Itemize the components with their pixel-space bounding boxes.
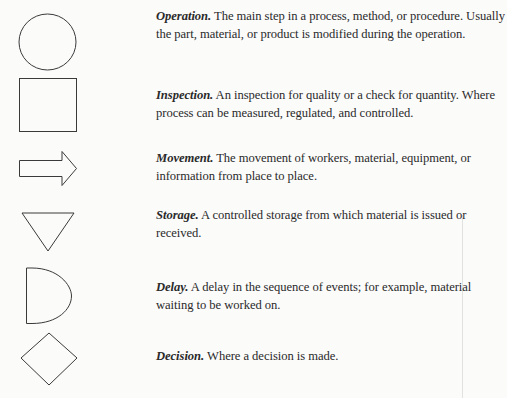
decision-description: Where a decision is made. xyxy=(204,349,338,363)
decision-entry: Decision. Where a decision is made. xyxy=(156,348,506,366)
movement-entry: Movement. The movement of workers, mater… xyxy=(156,150,506,185)
operation-term: Operation. xyxy=(156,9,211,23)
movement-term: Movement. xyxy=(156,151,213,165)
storage-description: A controlled storage from which material… xyxy=(156,208,466,240)
storage-term: Storage. xyxy=(156,208,199,222)
flowchart-symbols xyxy=(0,0,100,398)
d-shape-icon xyxy=(27,268,72,324)
operation-entry: Operation. The main step in a process, m… xyxy=(156,8,506,43)
square-icon xyxy=(20,79,77,132)
arrow-right-icon xyxy=(20,152,77,186)
delay-description: A delay in the sequence of events; for e… xyxy=(156,280,471,312)
delay-term: Delay. xyxy=(156,280,188,294)
circle-icon xyxy=(19,14,76,70)
diamond-icon xyxy=(21,333,77,385)
inspection-entry: Inspection. An inspection for quality or… xyxy=(156,87,506,122)
triangle-down-icon xyxy=(22,213,74,251)
storage-entry: Storage. A controlled storage from which… xyxy=(156,207,506,242)
inspection-term: Inspection. xyxy=(156,88,213,102)
delay-entry: Delay. A delay in the sequence of events… xyxy=(156,279,506,314)
decision-term: Decision. xyxy=(156,349,204,363)
